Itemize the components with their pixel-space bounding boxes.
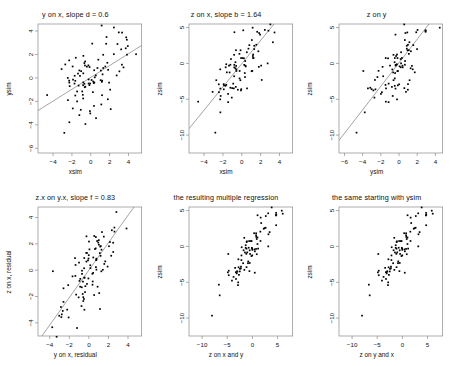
- plot-panel-5: the resulting multiple regression−10−505…: [151, 183, 302, 366]
- data-point: [94, 76, 96, 78]
- data-point: [126, 39, 128, 41]
- data-point: [374, 79, 376, 81]
- data-point: [113, 27, 115, 29]
- data-point: [404, 272, 406, 274]
- data-point: [119, 71, 121, 73]
- data-point: [83, 298, 85, 300]
- data-point: [104, 66, 106, 68]
- data-point: [404, 250, 406, 252]
- data-point: [112, 251, 114, 253]
- plot-area: −4−2024420−2−4: [0, 183, 151, 366]
- data-point: [83, 62, 85, 64]
- data-point: [81, 273, 83, 275]
- data-point: [51, 326, 53, 328]
- data-point: [397, 262, 399, 264]
- plot-frame: [189, 207, 293, 336]
- data-point: [245, 241, 247, 243]
- data-point: [103, 236, 105, 238]
- data-point: [96, 269, 98, 271]
- data-point: [82, 281, 84, 283]
- data-point: [240, 57, 242, 59]
- data-point: [89, 83, 91, 85]
- data-point: [81, 286, 83, 288]
- data-point: [394, 78, 396, 80]
- data-point: [247, 261, 249, 263]
- data-point: [251, 39, 253, 41]
- data-point: [388, 57, 390, 59]
- data-point: [101, 249, 103, 251]
- data-point: [393, 54, 395, 56]
- data-point: [407, 89, 409, 91]
- data-point: [238, 70, 240, 72]
- x-axis-label: ysim: [301, 168, 452, 175]
- data-point: [93, 82, 95, 84]
- data-point: [385, 57, 387, 59]
- data-point: [232, 276, 234, 278]
- data-point: [248, 249, 250, 251]
- data-point: [123, 67, 125, 69]
- data-point: [99, 252, 101, 254]
- data-point: [406, 238, 408, 240]
- data-point: [395, 72, 397, 74]
- data-point: [100, 104, 102, 106]
- data-point: [409, 79, 411, 81]
- data-point: [406, 232, 408, 234]
- plot-area: −6−4−202450−5−10: [301, 0, 452, 183]
- data-point: [101, 80, 103, 82]
- data-point: [415, 215, 417, 217]
- data-point: [101, 94, 103, 96]
- data-point: [235, 65, 237, 67]
- data-point: [261, 79, 263, 81]
- data-point: [244, 60, 246, 62]
- data-point: [282, 213, 284, 215]
- data-point: [100, 79, 102, 81]
- data-point: [252, 57, 254, 59]
- data-point: [244, 76, 246, 78]
- data-point: [246, 88, 248, 90]
- data-point: [88, 83, 90, 85]
- data-point: [228, 274, 230, 276]
- data-point: [102, 67, 104, 69]
- data-point: [82, 94, 84, 96]
- plot-panel-1: y on x, slope d = 0.6−4−2024420−2−4−6xsi…: [0, 0, 151, 183]
- data-point: [72, 79, 74, 81]
- data-point: [67, 99, 69, 101]
- data-point: [385, 278, 387, 280]
- data-point: [256, 253, 258, 255]
- data-point: [80, 70, 82, 72]
- data-point: [401, 51, 403, 53]
- data-point: [395, 88, 397, 90]
- data-point: [109, 241, 111, 243]
- data-point: [408, 248, 410, 250]
- data-point: [405, 32, 407, 34]
- data-point: [238, 274, 240, 276]
- data-point: [68, 60, 70, 62]
- data-point: [396, 248, 398, 250]
- data-point: [211, 91, 213, 93]
- data-point: [373, 90, 375, 92]
- data-point: [394, 57, 396, 59]
- data-point: [235, 49, 237, 51]
- data-point: [68, 80, 70, 82]
- x-tick-label: 2: [108, 158, 112, 165]
- y-tick-label: −10: [328, 129, 335, 140]
- data-point: [63, 301, 65, 303]
- data-point: [237, 284, 239, 286]
- y-tick-label: −6: [27, 144, 34, 152]
- data-point: [95, 75, 97, 77]
- data-point: [259, 240, 261, 242]
- data-point: [218, 284, 220, 286]
- data-point: [110, 108, 112, 110]
- data-point: [388, 266, 390, 268]
- data-point: [233, 88, 235, 90]
- data-point: [425, 31, 427, 33]
- data-point: [72, 276, 74, 278]
- data-point: [95, 117, 97, 119]
- y-tick-label: −4: [27, 121, 34, 129]
- y-tick-label: −2: [27, 97, 34, 105]
- data-point: [84, 86, 86, 88]
- x-tick-label: 2: [107, 341, 111, 348]
- data-point: [66, 309, 68, 311]
- data-point: [63, 287, 65, 289]
- y-axis-label: zsim: [155, 82, 162, 95]
